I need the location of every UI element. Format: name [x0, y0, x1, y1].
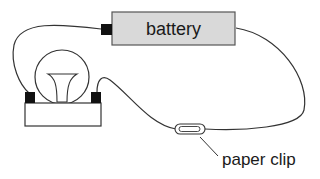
paper-clip-leader-line [200, 137, 218, 156]
battery-terminal [101, 24, 112, 35]
bulb-terminal-right [91, 92, 101, 103]
bulb-terminal-left [25, 92, 35, 103]
paper-clip [175, 124, 205, 134]
wire-bulb-to-clip [97, 78, 176, 129]
paper-clip-label: paper clip [222, 148, 296, 172]
light-bulb [25, 50, 101, 126]
paper-clip-outer [175, 124, 205, 134]
bulb-base [25, 103, 101, 126]
battery-label: battery [112, 14, 235, 44]
